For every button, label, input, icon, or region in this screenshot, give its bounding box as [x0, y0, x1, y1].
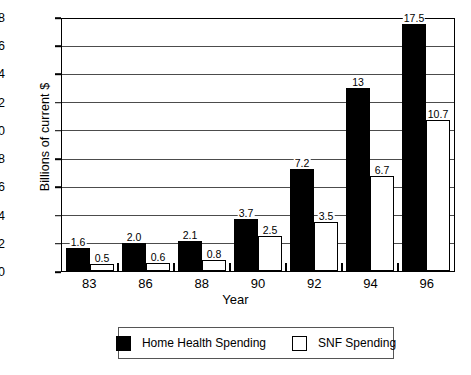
bar-value-label: 10.7 — [427, 109, 449, 120]
bar-value-label: 0.8 — [206, 249, 223, 260]
bar-group: 1.60.5 — [62, 19, 118, 271]
bar-home-health[interactable]: 13 — [346, 88, 370, 271]
bar-snf[interactable]: 0.8 — [202, 260, 226, 271]
legend-swatch-home-health — [116, 336, 131, 351]
legend-item: SNF Spending — [292, 336, 396, 351]
chart-figure: Billions of current $ 024681012141618 1.… — [0, 0, 471, 375]
legend-item: Home Health Spending — [116, 336, 266, 351]
plot-area: 1.60.52.00.62.10.83.72.57.23.5136.717.51… — [61, 18, 455, 272]
bar-snf[interactable]: 6.7 — [370, 176, 394, 271]
y-tick-label: 18 — [0, 11, 5, 25]
y-axis-title: Billions of current $ — [38, 22, 52, 252]
y-tick-label: 4 — [0, 209, 5, 223]
bar-home-health[interactable]: 17.5 — [402, 24, 426, 271]
bar-group: 17.510.7 — [398, 19, 454, 271]
legend-label-snf: SNF Spending — [318, 336, 396, 350]
bar-snf[interactable]: 2.5 — [258, 236, 282, 271]
legend-label-home-health: Home Health Spending — [142, 336, 266, 350]
x-axis-title: Year — [0, 292, 471, 307]
bar-value-label: 17.5 — [403, 13, 425, 24]
bar-value-label: 13 — [351, 77, 365, 88]
y-tick-label: 14 — [0, 67, 5, 81]
y-tick-label: 8 — [0, 152, 5, 166]
bar-group: 7.23.5 — [286, 19, 342, 271]
legend: Home Health Spending SNF Spending — [118, 327, 394, 359]
y-tick-label: 12 — [0, 96, 5, 110]
bar-value-label: 1.6 — [70, 237, 87, 248]
bar-group: 136.7 — [342, 19, 398, 271]
bar-snf[interactable]: 0.6 — [146, 263, 170, 271]
bar-groups: 1.60.52.00.62.10.83.72.57.23.5136.717.51… — [62, 19, 454, 271]
bar-value-label: 0.5 — [94, 253, 111, 264]
y-tick-label: 16 — [0, 39, 5, 53]
bar-snf[interactable]: 0.5 — [90, 264, 114, 271]
y-tick-label: 10 — [0, 124, 5, 138]
bar-snf[interactable]: 10.7 — [426, 120, 450, 271]
bar-value-label: 6.7 — [374, 165, 391, 176]
bar-value-label: 2.5 — [262, 225, 279, 236]
bar-home-health[interactable]: 1.6 — [66, 248, 90, 271]
bar-value-label: 3.7 — [238, 208, 255, 219]
bar-group: 3.72.5 — [230, 19, 286, 271]
bar-home-health[interactable]: 2.1 — [178, 241, 202, 271]
bar-home-health[interactable]: 2.0 — [122, 243, 146, 271]
bar-snf[interactable]: 3.5 — [314, 222, 338, 271]
bar-home-health[interactable]: 7.2 — [290, 169, 314, 271]
bar-value-label: 2.1 — [182, 230, 199, 241]
bar-value-label: 7.2 — [294, 158, 311, 169]
bar-value-label: 2.0 — [126, 232, 143, 243]
legend-swatch-snf — [292, 336, 307, 351]
bar-group: 2.00.6 — [118, 19, 174, 271]
bar-group: 2.10.8 — [174, 19, 230, 271]
y-tick-label: 0 — [0, 265, 5, 279]
bar-value-label: 3.5 — [318, 211, 335, 222]
y-tick-label: 6 — [0, 180, 5, 194]
y-tick-label: 2 — [0, 237, 5, 251]
bar-home-health[interactable]: 3.7 — [234, 219, 258, 271]
bar-value-label: 0.6 — [150, 252, 167, 263]
